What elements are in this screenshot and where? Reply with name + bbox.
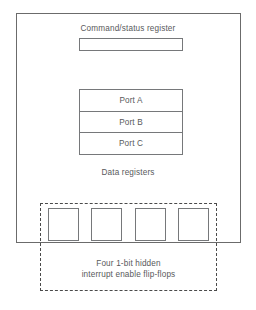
flip-flop-cell (48, 208, 79, 241)
port-c-label: Port C (119, 139, 143, 148)
flip-flop-cells-group (48, 208, 209, 241)
diagram-canvas: Command/status register Port A Port B Po… (0, 0, 256, 310)
command-status-register-box (79, 38, 183, 51)
port-a-label: Port A (119, 96, 142, 105)
port-b-label: Port B (119, 118, 143, 127)
command-status-register-label: Command/status register (0, 23, 256, 34)
flip-flop-cell (178, 208, 209, 241)
flip-flops-caption-line-1: Four 1-bit hidden (40, 258, 217, 269)
flip-flop-cell (135, 208, 166, 241)
flip-flops-caption: Four 1-bit hidden interrupt enable flip-… (40, 258, 217, 280)
port-b-row: Port B (80, 112, 182, 134)
flip-flops-caption-line-2: interrupt enable flip-flops (40, 269, 217, 280)
data-registers-caption: Data registers (0, 167, 256, 178)
data-registers-stack: Port A Port B Port C (79, 89, 183, 155)
flip-flop-cell (91, 208, 122, 241)
port-a-row: Port A (80, 90, 182, 112)
port-c-row: Port C (80, 133, 182, 154)
